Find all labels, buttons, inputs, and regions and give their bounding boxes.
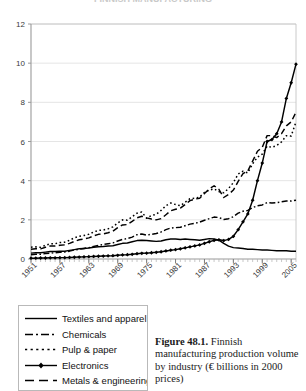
svg-text:1999: 1999 — [251, 260, 270, 279]
series-marker — [198, 243, 202, 247]
series-marker — [87, 255, 91, 259]
series-marker — [256, 179, 260, 183]
series-marker — [178, 247, 182, 251]
svg-text:10: 10 — [16, 59, 25, 68]
series-marker — [135, 252, 139, 256]
caption-label: Figure 48.1. — [155, 336, 208, 347]
series-marker — [260, 161, 264, 165]
svg-text:2: 2 — [21, 216, 26, 225]
legend-swatch-dash-dot — [23, 329, 59, 340]
series-line — [31, 200, 296, 254]
series-marker — [183, 246, 187, 250]
svg-text:1981: 1981 — [164, 260, 183, 279]
svg-text:1963: 1963 — [78, 260, 97, 279]
svg-text:4: 4 — [21, 177, 26, 186]
series-marker — [97, 254, 101, 258]
legend-label: Textiles and apparel — [62, 313, 147, 324]
series-marker — [130, 252, 134, 256]
svg-text:12: 12 — [16, 20, 25, 29]
series-marker — [289, 81, 293, 85]
series-marker — [82, 255, 86, 259]
series-marker — [145, 251, 149, 255]
series-marker — [207, 240, 211, 244]
legend-item-textiles-and-apparel: Textiles and apparel — [23, 311, 147, 327]
series-marker — [121, 253, 125, 257]
figure-caption: Figure 48.1. Finnish manufacturing produ… — [155, 336, 305, 387]
series-marker — [111, 254, 115, 258]
series-marker — [203, 241, 207, 245]
series-marker — [77, 255, 81, 259]
series-marker — [101, 254, 105, 258]
series-marker — [193, 244, 197, 248]
legend-item-metals-and-engineering: Metals & engineering — [23, 373, 147, 389]
legend-item-electronics: Electronics — [23, 358, 147, 374]
legend-swatch-dotted — [23, 344, 59, 355]
series-marker — [251, 198, 255, 202]
series-marker — [265, 140, 269, 144]
series-marker — [106, 254, 110, 258]
series-marker — [169, 248, 173, 252]
legend-swatch-solid — [23, 313, 59, 324]
svg-text:8: 8 — [21, 98, 26, 107]
svg-text:1969: 1969 — [106, 260, 125, 279]
legend-item-pulp-and-paper: Pulp & paper — [23, 342, 147, 358]
series-line — [31, 64, 296, 258]
svg-text:1993: 1993 — [222, 260, 241, 279]
legend-label: Pulp & paper — [62, 344, 117, 355]
svg-text:2005: 2005 — [280, 260, 299, 279]
series-marker — [188, 245, 192, 249]
legend-label: Metals & engineering — [62, 375, 148, 386]
legend-swatch-dashed — [23, 375, 59, 386]
clipped-figure-title: FINNISH MANUFACTURING — [0, 0, 306, 4]
svg-text:0: 0 — [21, 255, 26, 264]
svg-text:1957: 1957 — [49, 260, 68, 279]
chart-legend: Textiles and apparel Chemicals Pulp & pa… — [18, 305, 148, 391]
series-marker — [164, 249, 168, 253]
series-marker — [92, 255, 96, 259]
chart-plot: 0246810121951195719631969197519811987199… — [0, 10, 306, 295]
series-marker — [284, 97, 288, 101]
legend-item-chemicals: Chemicals — [23, 327, 147, 343]
series-marker — [150, 251, 154, 255]
legend-label: Electronics — [62, 360, 108, 371]
legend-label: Chemicals — [62, 329, 106, 340]
svg-text:1975: 1975 — [135, 260, 154, 279]
series-marker — [154, 250, 158, 254]
svg-text:6: 6 — [21, 138, 26, 147]
series-marker — [140, 251, 144, 255]
legend-swatch-solid-diamond — [23, 360, 59, 371]
series-marker — [116, 253, 120, 257]
series-marker — [280, 120, 284, 124]
series-marker — [174, 248, 178, 252]
svg-text:1987: 1987 — [193, 260, 212, 279]
series-marker — [125, 253, 129, 257]
series-marker — [159, 250, 163, 254]
